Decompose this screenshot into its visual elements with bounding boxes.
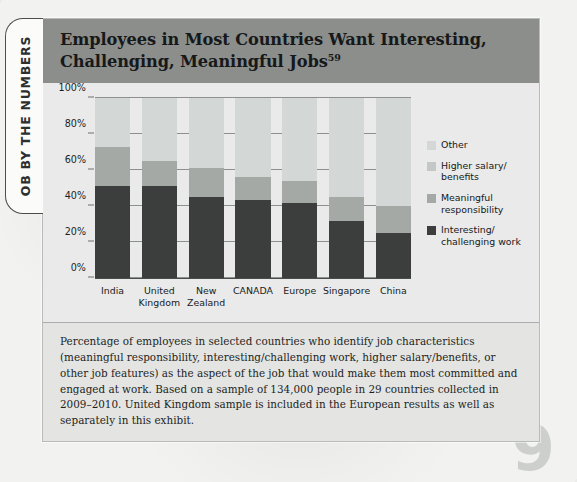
y-axis-tick-label: 80%	[65, 118, 86, 129]
bar-column: CANADA	[235, 98, 270, 278]
bar-segment	[282, 98, 317, 181]
legend-item: Other	[427, 139, 531, 151]
y-axis-tick-mark	[88, 169, 94, 170]
legend-item: Higher salary/benefits	[427, 160, 531, 183]
bar-segment	[376, 98, 411, 206]
bar-segment	[329, 98, 364, 197]
exhibit-title-footnote-ref: 59	[328, 51, 341, 62]
plot-wrapper: 0%20%40%60%80%100% IndiaUnitedKingdomNew…	[43, 83, 421, 322]
legend-item: Meaningfulresponsibility	[427, 192, 531, 215]
y-axis-tick-label: 20%	[65, 226, 86, 237]
bar-segment	[189, 168, 224, 197]
bar-column: NewZealand	[189, 98, 224, 278]
bar-segment	[376, 233, 411, 278]
bar-column: China	[376, 98, 411, 278]
bar-segment	[95, 186, 130, 278]
legend-label: Interesting/challenging work	[441, 224, 521, 247]
exhibit-title-band: Employees in Most Countries Want Interes…	[43, 19, 539, 83]
bar-segment	[235, 200, 270, 278]
x-axis-line	[95, 278, 411, 280]
x-axis-category-label: China	[366, 285, 421, 296]
bar-segment	[189, 197, 224, 278]
y-axis-tick-mark	[88, 205, 94, 206]
legend-swatch	[427, 194, 436, 203]
exhibit-caption-box: Percentage of employees in selected coun…	[43, 322, 539, 441]
bar-segment	[189, 98, 224, 168]
bar-segment	[282, 181, 317, 203]
plot-area: 0%20%40%60%80%100% IndiaUnitedKingdomNew…	[95, 98, 411, 278]
bar-segment	[376, 206, 411, 233]
y-axis-tick-mark	[88, 277, 94, 278]
bar-segment	[95, 98, 130, 147]
legend-item: Interesting/challenging work	[427, 224, 531, 247]
bars-group: IndiaUnitedKingdomNewZealandCANADAEurope…	[95, 98, 411, 278]
y-axis-tick-mark	[88, 133, 94, 134]
bar-segment	[142, 161, 177, 186]
y-axis-tick-mark	[88, 97, 94, 98]
bar-segment	[329, 197, 364, 220]
section-tab-label: OB BY THE NUMBERS	[17, 36, 32, 196]
legend-label: Other	[441, 139, 468, 151]
exhibit-caption: Percentage of employees in selected coun…	[60, 334, 523, 429]
bar-segment	[235, 177, 270, 200]
y-axis-tick-label: 60%	[65, 154, 86, 165]
legend-label: Meaningfulresponsibility	[441, 192, 503, 215]
bar-segment	[142, 186, 177, 278]
y-axis-tick-mark	[88, 241, 94, 242]
bar-column: Singapore	[329, 98, 364, 278]
bar-segment	[142, 98, 177, 161]
chart-legend: OtherHigher salary/benefitsMeaningfulres…	[421, 83, 539, 322]
bar-column: Europe	[282, 98, 317, 278]
legend-label: Higher salary/benefits	[441, 160, 507, 183]
y-axis-tick-label: 100%	[59, 82, 86, 93]
y-axis-tick-label: 40%	[65, 190, 86, 201]
chart-region: 0%20%40%60%80%100% IndiaUnitedKingdomNew…	[43, 83, 539, 322]
exhibit-title-line-1: Employees in Most Countries Want Interes…	[60, 30, 486, 49]
exhibit-title: Employees in Most Countries Want Interes…	[60, 29, 523, 72]
bar-segment	[235, 98, 270, 177]
section-tab: OB BY THE NUMBERS	[5, 18, 43, 214]
legend-swatch	[427, 226, 436, 235]
exhibit-title-line-2: Challenging, Meaningful Jobs	[60, 52, 328, 71]
y-axis-tick-label: 0%	[71, 262, 86, 273]
bar-segment	[282, 203, 317, 279]
bar-column: UnitedKingdom	[142, 98, 177, 278]
legend-swatch	[427, 141, 436, 150]
exhibit-panel: Employees in Most Countries Want Interes…	[42, 18, 540, 442]
bar-column: India	[95, 98, 130, 278]
bar-segment	[95, 147, 130, 187]
legend-swatch	[427, 162, 436, 171]
bar-segment	[329, 221, 364, 279]
